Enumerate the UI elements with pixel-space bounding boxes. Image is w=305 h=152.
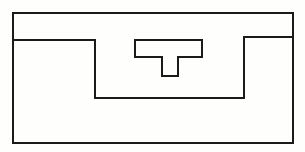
t-shape [135,40,202,76]
channel-profile-line [13,37,293,98]
diagram-canvas [0,0,305,152]
outer-frame [13,13,293,143]
